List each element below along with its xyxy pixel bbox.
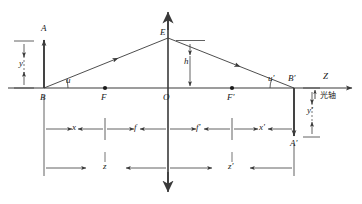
label-point-B-prime: B' [288, 74, 295, 83]
label-height-y-prime: y' [307, 106, 313, 115]
height-y-dimension [14, 41, 34, 88]
focal-point-F-dot [103, 86, 107, 90]
label-angle-u: u [66, 76, 71, 85]
label-point-A: A [41, 24, 47, 33]
label-distance-x-prime: x' [259, 123, 265, 132]
label-distance-z: z [103, 162, 107, 171]
label-distance-f-prime: f' [196, 123, 200, 132]
label-optical-axis-chinese: 光轴 [320, 92, 336, 100]
label-distance-z-prime: z' [228, 162, 233, 171]
diagram-canvas [0, 0, 362, 204]
label-point-F-prime: F' [227, 93, 234, 102]
label-point-B: B [40, 93, 46, 102]
focal-point-F-prime-dot [230, 86, 234, 90]
label-axis-Z: Z [323, 72, 328, 81]
label-point-F: F [101, 93, 107, 102]
label-point-A-prime: A' [290, 139, 297, 148]
label-point-O: O [163, 93, 170, 102]
label-height-y: y [19, 59, 23, 68]
label-point-E: E [160, 28, 166, 37]
dimension-extension-lines [44, 95, 294, 176]
label-height-h: h [184, 57, 189, 66]
incident-ray [44, 38, 168, 88]
label-angle-u-prime: u' [268, 74, 274, 83]
label-distance-x: x [72, 123, 76, 132]
optics-ray-diagram: A B F O F' B' A' E Z 光轴 y y' h u u' x f … [0, 0, 362, 204]
label-distance-f: f [134, 123, 137, 132]
